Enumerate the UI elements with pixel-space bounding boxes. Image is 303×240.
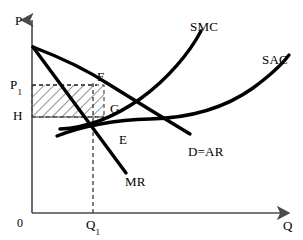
origin-label: 0 bbox=[17, 217, 23, 229]
sac-curve-label: SAC bbox=[262, 53, 288, 66]
diagram-canvas bbox=[0, 0, 303, 240]
y-axis-label: P bbox=[15, 14, 22, 27]
y-tick-p1-sub: 1 bbox=[17, 87, 22, 97]
economics-diagram: P Q 0 P1 H Q1 SMC SAC D=AR MR F G E bbox=[0, 0, 303, 240]
y-tick-p1: P1 bbox=[10, 78, 22, 95]
mr-curve-label: MR bbox=[125, 175, 146, 188]
x-tick-q1-sub: 1 bbox=[96, 227, 101, 237]
y-tick-h: H bbox=[13, 109, 23, 122]
x-tick-q1-text: Q bbox=[86, 217, 96, 232]
smc-curve-label: SMC bbox=[190, 20, 218, 33]
x-tick-q1: Q1 bbox=[86, 218, 100, 235]
point-label-f: F bbox=[97, 70, 104, 83]
demand-ar-curve-label: D=AR bbox=[188, 145, 224, 158]
point-label-e: E bbox=[119, 133, 127, 146]
point-label-g: G bbox=[110, 102, 120, 115]
x-axis-label: Q bbox=[283, 219, 293, 232]
